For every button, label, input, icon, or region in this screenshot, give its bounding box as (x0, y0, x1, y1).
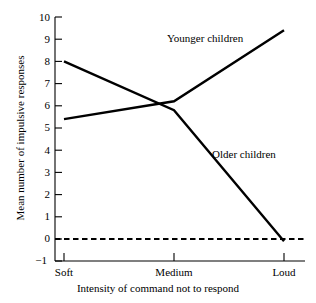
y-axis-title: Mean number of impulsive responses (14, 23, 26, 253)
y-tick-label-1: 1 (26, 211, 50, 222)
y-tick-label-minus-1: −1 (23, 255, 47, 266)
chart-figure: 10 9 8 7 6 5 4 3 2 1 0 −1 Soft Medium Lo… (0, 0, 316, 303)
y-tick-label-6: 6 (26, 100, 50, 111)
y-tick-label-4: 4 (26, 145, 50, 156)
y-axis-ticks (55, 17, 62, 261)
x-tick-label-medium: Medium (139, 267, 209, 278)
series-label-older-children: Older children (212, 148, 276, 160)
y-tick-label-3: 3 (26, 167, 50, 178)
x-tick-label-soft: Soft (29, 267, 99, 278)
x-tick-label-loud: Loud (249, 267, 316, 278)
x-axis-title: Intensity of command not to respond (0, 282, 316, 294)
y-tick-label-2: 2 (26, 189, 50, 200)
y-tick-label-0: 0 (26, 233, 50, 244)
y-tick-label-5: 5 (26, 122, 50, 133)
series-label-younger-children: Younger children (167, 32, 243, 44)
y-tick-label-9: 9 (26, 34, 50, 45)
y-tick-label-7: 7 (26, 78, 50, 89)
y-tick-label-8: 8 (26, 56, 50, 67)
y-tick-label-10: 10 (26, 12, 50, 23)
x-axis-ticks (64, 253, 284, 261)
